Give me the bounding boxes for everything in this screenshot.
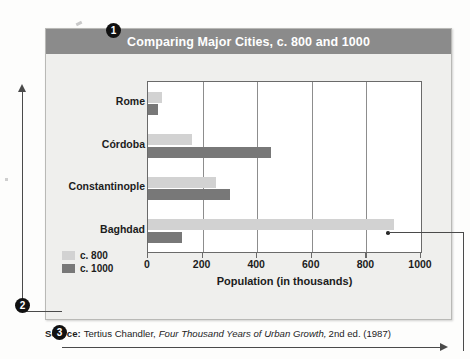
tick-label-200: 200 <box>193 258 211 270</box>
chart-legend: c. 800c. 1000 <box>62 250 146 276</box>
legend-label: c. 1000 <box>80 263 113 274</box>
plot-area <box>147 81 422 253</box>
category-axis-labels: RomeCórdobaConstantinopleBaghdad <box>46 81 145 251</box>
category-label-crdoba: Córdoba <box>47 138 145 150</box>
bar-constantinople-800 <box>148 177 216 188</box>
tick-label-600: 600 <box>302 258 320 270</box>
annotation-leader-horizontal <box>389 232 464 233</box>
annotation-line-horizontal-left <box>22 311 62 312</box>
chart-body: RomeCórdobaConstantinopleBaghdad 0200400… <box>46 54 451 319</box>
source-edition: 2nd ed. (1987) <box>329 328 391 339</box>
bar-rome-800 <box>148 92 162 103</box>
bar-rome-1000 <box>148 104 158 115</box>
bar-crdoba-1000 <box>148 147 271 158</box>
figure-container: Comparing Major Cities, c. 800 and 1000 … <box>45 28 452 320</box>
tick-label-800: 800 <box>357 258 375 270</box>
bar-baghdad-800 <box>148 219 394 230</box>
tick-label-1000: 1000 <box>408 258 431 270</box>
annotation-line-vertical <box>22 90 23 312</box>
figure-title: Comparing Major Cities, c. 800 and 1000 <box>127 35 370 49</box>
annotation-leader-vertical <box>463 232 464 351</box>
callout-badge-1: 1 <box>106 23 121 38</box>
category-label-rome: Rome <box>47 95 145 107</box>
bar-crdoba-800 <box>148 134 192 145</box>
legend-item: c. 1000 <box>62 263 146 274</box>
legend-swatch <box>62 251 75 260</box>
legend-item: c. 800 <box>62 250 146 261</box>
bar-constantinople-1000 <box>148 189 230 200</box>
source-line: Source: Tertius Chandler, Four Thousand … <box>45 324 465 342</box>
annotation-line-bottom <box>62 347 442 348</box>
annotation-arrow-right <box>440 343 448 351</box>
callout-badge-2: 2 <box>15 298 30 313</box>
source-author: Tertius Chandler, <box>84 328 156 339</box>
category-label-baghdad: Baghdad <box>47 223 145 235</box>
value-axis-ticks: 02004006008001000 <box>147 253 422 269</box>
legend-swatch <box>62 264 75 273</box>
category-label-constantinople: Constantinople <box>47 180 145 192</box>
x-axis-title: Population (in thousands) <box>147 275 422 287</box>
source-work-title: Four Thousand Years of Urban Growth, <box>159 328 327 339</box>
scan-speck <box>5 178 8 181</box>
bar-baghdad-1000 <box>148 232 182 243</box>
legend-label: c. 800 <box>80 250 108 261</box>
tick-label-400: 400 <box>247 258 265 270</box>
callout-badge-3: 3 <box>52 325 67 340</box>
